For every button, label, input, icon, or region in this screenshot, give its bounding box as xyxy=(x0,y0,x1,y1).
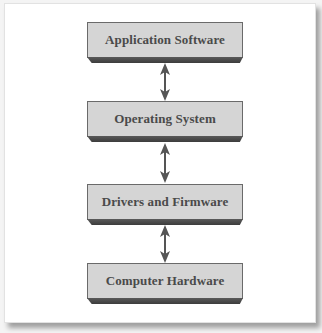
layer-box-shadow xyxy=(87,298,243,304)
layer-label: Application Software xyxy=(105,32,225,48)
layer-box: Computer Hardware xyxy=(87,263,243,299)
layer-label: Operating System xyxy=(114,111,216,127)
layer-box: Application Software xyxy=(87,22,243,58)
layer-operating-system: Operating System xyxy=(87,101,243,141)
bidirectional-arrow-icon xyxy=(158,143,172,183)
layer-computer-hardware: Computer Hardware xyxy=(87,263,243,303)
layer-box: Drivers and Firmware xyxy=(87,184,243,220)
bidirectional-arrow-icon xyxy=(158,225,172,263)
layer-label: Drivers and Firmware xyxy=(102,194,229,210)
layer-drivers-and-firmware: Drivers and Firmware xyxy=(87,184,243,224)
layer-application-software: Application Software xyxy=(87,22,243,62)
bidirectional-arrow-icon xyxy=(158,63,172,101)
diagram-page: Application Software Operating System Dr… xyxy=(4,3,316,323)
layer-box-shadow xyxy=(87,136,243,142)
layer-box: Operating System xyxy=(87,101,243,137)
layer-label: Computer Hardware xyxy=(106,273,225,289)
